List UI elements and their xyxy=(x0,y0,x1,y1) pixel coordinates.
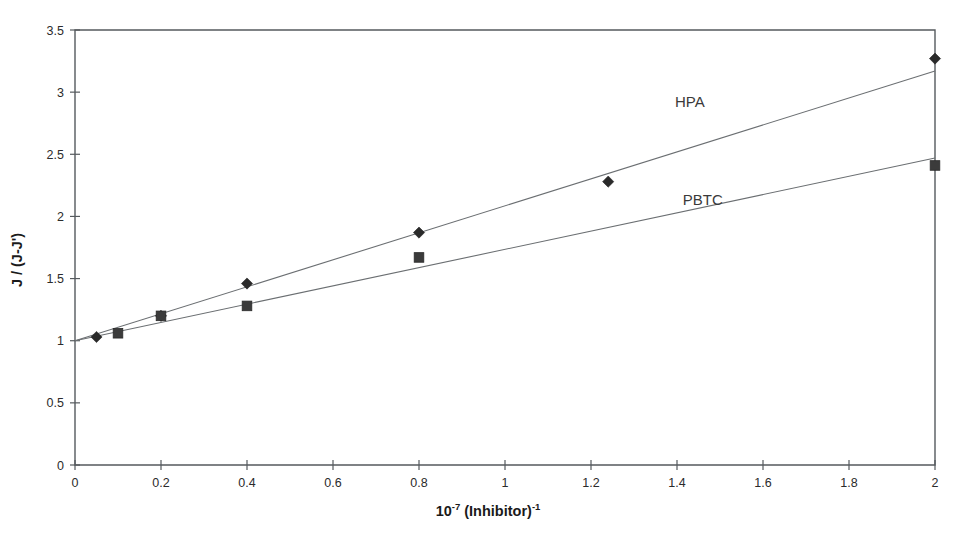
x-tick-label: 0.6 xyxy=(324,476,341,490)
data-point-pbtc xyxy=(156,311,166,321)
x-axis-title-base: 10 xyxy=(436,503,452,519)
data-point-hpa xyxy=(413,227,424,238)
data-point-hpa xyxy=(603,176,614,187)
data-point-hpa xyxy=(929,53,940,64)
x-tick-label: 1.8 xyxy=(840,476,857,490)
x-tick-label: 0.2 xyxy=(152,476,169,490)
plot-border xyxy=(75,30,935,465)
data-markers xyxy=(91,53,941,343)
y-tick-label: 0 xyxy=(57,459,64,473)
plot-frame xyxy=(75,30,935,465)
data-point-pbtc xyxy=(113,328,123,338)
data-point-pbtc xyxy=(414,253,424,263)
y-tick-label: 2 xyxy=(57,210,64,224)
trendline-pbtc xyxy=(75,158,935,341)
x-tick-label: 1.2 xyxy=(582,476,599,490)
y-tick-label: 0.5 xyxy=(47,396,64,410)
x-axis-title-exponent-1: -7 xyxy=(452,501,460,512)
y-tick-label: 2.5 xyxy=(47,148,64,162)
data-point-pbtc xyxy=(930,161,940,171)
y-tick-label: 1.5 xyxy=(47,272,64,286)
x-axis-title-text: 10-7 (Inhibitor)-1 xyxy=(436,501,541,519)
y-tick-label: 1 xyxy=(57,334,64,348)
x-tick-label: 1.6 xyxy=(754,476,771,490)
x-tick-label: 1 xyxy=(502,476,509,490)
y-tick-label: 3 xyxy=(57,86,64,100)
trendline-hpa xyxy=(75,71,935,341)
chart-figure: 00.511.522.533.5 00.20.40.60.811.21.41.6… xyxy=(0,0,965,537)
x-tick-label: 0.8 xyxy=(410,476,427,490)
x-axis-title-mid: (Inhibitor) xyxy=(460,503,532,519)
series-label-hpa: HPA xyxy=(675,93,705,110)
scatter-plot-svg: 00.511.522.533.5 00.20.40.60.811.21.41.6… xyxy=(0,0,965,537)
x-tick-label: 1.4 xyxy=(668,476,685,490)
x-tick-label: 0.4 xyxy=(238,476,255,490)
y-axis-title-text: J / (J-J') xyxy=(9,233,25,287)
x-axis-title-exponent-2: -1 xyxy=(532,501,541,512)
x-axis-title: 10-7 (Inhibitor)-1 xyxy=(436,501,541,519)
x-tick-label: 0 xyxy=(72,476,79,490)
y-tick-label: 3.5 xyxy=(47,24,64,38)
trendlines xyxy=(75,71,935,341)
data-point-pbtc xyxy=(242,301,252,311)
x-tick-label: 2 xyxy=(932,476,939,490)
series-label-pbtc: PBTC xyxy=(683,191,723,208)
y-axis-title: J / (J-J') xyxy=(9,233,25,287)
